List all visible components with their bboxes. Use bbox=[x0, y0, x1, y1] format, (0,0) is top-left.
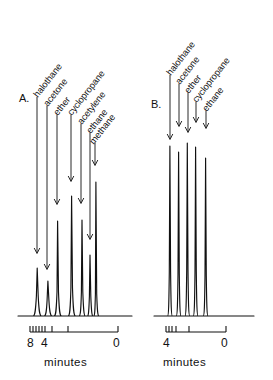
panel-a-trace bbox=[0, 0, 150, 380]
panel-a-arrowheads bbox=[34, 160, 98, 270]
panel-a-tick-label-4: 4 bbox=[41, 337, 48, 349]
panel-a: A. halothane acetone ether cyclopropane … bbox=[0, 0, 150, 380]
panel-b-axis-title: minutes bbox=[163, 357, 206, 369]
panel-b-baseline-and-peaks bbox=[154, 143, 254, 316]
panel-a-tick-label-8: 8 bbox=[27, 337, 34, 349]
panel-a-leaders bbox=[37, 97, 95, 268]
panel-b-ticks bbox=[166, 326, 226, 332]
panel-b-leaders bbox=[170, 75, 206, 138]
panel-a-tick-label-0: 0 bbox=[113, 337, 120, 349]
panel-b-tick-label-0: 0 bbox=[221, 337, 228, 349]
panel-a-axis-title: minutes bbox=[44, 357, 87, 369]
panel-a-ticks bbox=[30, 326, 118, 332]
chromatogram-figure: A. halothane acetone ether cyclopropane … bbox=[0, 0, 273, 380]
panel-b-trace bbox=[148, 0, 273, 380]
panel-b: B. halothane acetone ether cyclopropane … bbox=[148, 0, 273, 380]
panel-b-tick-label-4: 4 bbox=[163, 337, 170, 349]
